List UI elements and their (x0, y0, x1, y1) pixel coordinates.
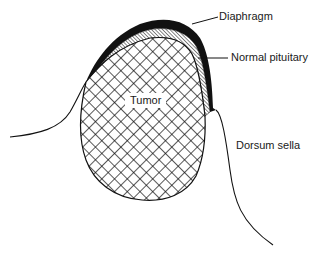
normal-pituitary-label: Normal pituitary (231, 52, 308, 63)
tumor-label: Tumor (125, 93, 166, 108)
diaphragm-leader-line (192, 17, 218, 24)
pituitary-tumor-diagram (0, 0, 321, 253)
sella-floor-left-line (10, 82, 86, 137)
dorsum-sella-line (216, 110, 273, 245)
dorsum-sella-label: Dorsum sella (236, 140, 300, 151)
diaphragm-label: Diaphragm (219, 11, 273, 22)
